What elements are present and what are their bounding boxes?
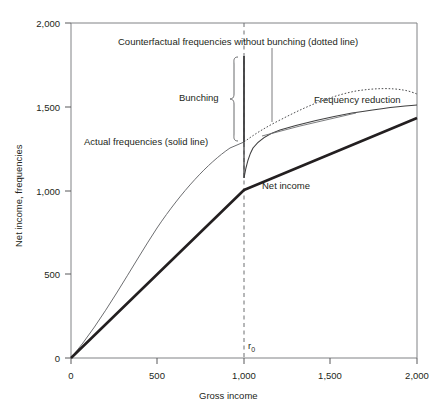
kink-marker-subscript: 0 [251,346,255,353]
x-tick-label-1000: 1,000 [214,370,274,381]
annotation-counterfactual: Counterfactual frequencies without bunch… [118,36,358,47]
y-axis-ticks [65,23,71,358]
kink-marker-label: r0 [248,340,255,353]
bunching-bracket [230,57,238,141]
annotation-bunching: Bunching [179,92,219,103]
y-tick-label-0: 0 [16,353,60,364]
actual-frequency-curve [244,56,417,178]
x-axis-title: Gross income [199,390,258,401]
x-tick-label-500: 500 [127,370,187,381]
y-tick-label-1500: 1,500 [16,102,60,113]
x-tick-label-1500: 1,500 [300,370,360,381]
y-tick-label-500: 500 [16,269,60,280]
x-axis-ticks [71,358,417,364]
y-axis-title: Net income, frequencies [13,145,24,247]
x-tick-label-0: 0 [41,370,101,381]
annotation-net-income: Net income [262,180,310,191]
annotation-frequency-reduction: Frequency reduction [314,94,401,105]
bunching-chart [0,0,440,409]
y-tick-label-2000: 2,000 [16,18,60,29]
frequency-reduction-leader-line [262,113,356,136]
x-tick-label-2000: 2,000 [387,370,440,381]
annotation-actual-frequencies: Actual frequencies (solid line) [84,136,208,147]
